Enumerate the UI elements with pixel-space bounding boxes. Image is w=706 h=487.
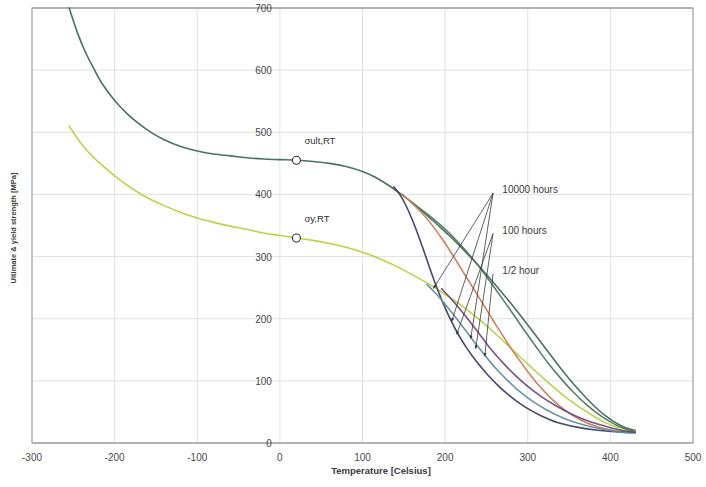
- y-tick-0: 0: [266, 438, 272, 449]
- x-tick--200: -200: [105, 452, 125, 463]
- x-axis-title: Temperature [Celsius]: [331, 465, 431, 476]
- y-axis-title: Ultimate & yield strength [MPa]: [9, 172, 18, 283]
- x-tick--100: -100: [187, 452, 207, 463]
- x-tick--300: -300: [22, 452, 42, 463]
- y-tick-100: 100: [255, 376, 272, 387]
- x-tick-0: 0: [277, 452, 283, 463]
- y-tick-400: 400: [255, 189, 272, 200]
- x-tick-300: 300: [519, 452, 536, 463]
- marker-sigma-ult-rt: [292, 156, 300, 164]
- y-tick-700: 700: [255, 3, 272, 14]
- anno-100-hours: 100 hours: [502, 225, 546, 236]
- x-tick-100: 100: [354, 452, 371, 463]
- label-sigma-y-rt: σy,RT: [304, 213, 329, 224]
- x-tick-500: 500: [685, 452, 702, 463]
- chart-background: [0, 0, 706, 487]
- chart-canvas: -300-200-1000100200300400500 01002003004…: [0, 0, 706, 487]
- marker-sigma-y-rt: [292, 234, 300, 242]
- y-tick-500: 500: [255, 127, 272, 138]
- y-tick-200: 200: [255, 314, 272, 325]
- anno-10000-hours: 10000 hours: [502, 184, 558, 195]
- label-sigma-ult-rt: σult,RT: [304, 135, 335, 146]
- x-tick-400: 400: [602, 452, 619, 463]
- y-tick-300: 300: [255, 252, 272, 263]
- x-tick-200: 200: [437, 452, 454, 463]
- strength-vs-temperature-chart: -300-200-1000100200300400500 01002003004…: [0, 0, 706, 487]
- anno-half-hour: 1/2 hour: [502, 265, 539, 276]
- y-tick-600: 600: [255, 65, 272, 76]
